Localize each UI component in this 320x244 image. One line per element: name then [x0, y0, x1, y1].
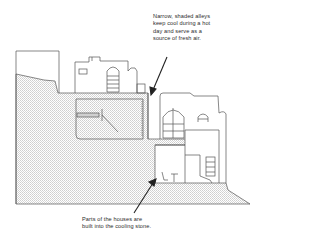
alley-arrow	[153, 57, 167, 90]
upper-house	[75, 57, 145, 93]
alley-arrowhead	[150, 87, 156, 95]
alleys-annotation: Narrow, shaded alleys keep cool during a…	[153, 13, 263, 43]
stone-annotation: Parts of the houses are built into the c…	[82, 216, 232, 231]
right-houses	[155, 93, 226, 183]
